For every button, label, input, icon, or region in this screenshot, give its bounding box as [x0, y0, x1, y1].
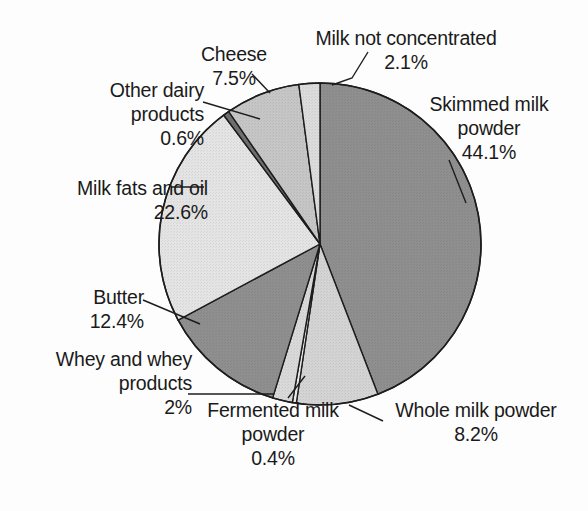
pie-label-skimmed-milk-powder-name-line1: Skimmed milk	[430, 93, 549, 115]
pie-label-fermented-milk-powder-value: 0.4%	[187, 446, 359, 470]
pie-label-other-dairy-products-value: 0.6%	[44, 126, 204, 150]
pie-label-skimmed-milk-powder: Skimmed milk powder 44.1%	[404, 92, 574, 164]
pie-label-other-dairy-products-name-line2: products	[44, 102, 204, 126]
pie-label-fermented-milk-powder-name-line2: powder	[187, 422, 359, 446]
pie-label-fermented-milk-powder-name-line1: Fermented milk	[207, 399, 339, 421]
pie-label-milk-not-concentrated-value: 2.1%	[291, 50, 521, 74]
pie-label-butter-name: Butter	[93, 286, 144, 308]
pie-label-whole-milk-powder-name: Whole milk powder	[395, 399, 556, 421]
pie-label-fermented-milk-powder: Fermented milk powder 0.4%	[187, 398, 359, 470]
pie-label-milk-fats-and-oil: Milk fats and oil 22.6%	[12, 176, 208, 224]
pie-label-whole-milk-powder-value: 8.2%	[376, 422, 576, 446]
pie-label-milk-not-concentrated: Milk not concentrated 2.1%	[291, 26, 521, 74]
chart-canvas: Milk not concentrated 2.1% Cheese 7.5% O…	[0, 0, 588, 511]
pie-label-skimmed-milk-powder-name-line2: powder	[404, 116, 574, 140]
pie-label-whey-and-whey-products: Whey and whey products 2%	[22, 347, 192, 419]
pie-label-whey-and-whey-products-value: 2%	[22, 395, 192, 419]
pie-label-butter: Butter 12.4%	[58, 285, 144, 333]
pie-label-other-dairy-products-name-line1: Other dairy	[110, 79, 204, 101]
pie-label-whey-and-whey-products-name-line1: Whey and whey	[56, 348, 192, 370]
pie-label-butter-value: 12.4%	[58, 309, 144, 333]
pie-label-skimmed-milk-powder-value: 44.1%	[404, 140, 574, 164]
pie-label-milk-fats-and-oil-name: Milk fats and oil	[77, 177, 208, 199]
pie-label-cheese-name: Cheese	[201, 43, 267, 65]
pie-label-whey-and-whey-products-name-line2: products	[22, 371, 192, 395]
pie-label-other-dairy-products: Other dairy products 0.6%	[44, 78, 204, 150]
pie-label-milk-fats-and-oil-value: 22.6%	[12, 200, 208, 224]
pie-label-milk-not-concentrated-name: Milk not concentrated	[315, 27, 496, 49]
pie-label-whole-milk-powder: Whole milk powder 8.2%	[376, 398, 576, 446]
